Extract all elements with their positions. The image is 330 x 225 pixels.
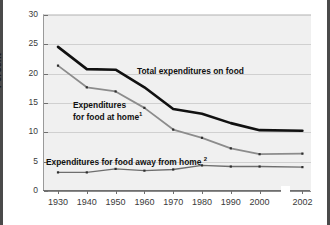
- y-tick-label: 15: [10, 98, 38, 107]
- x-tick-mark: [202, 190, 203, 194]
- series-marker: [259, 165, 261, 167]
- x-tick-mark: [173, 190, 174, 194]
- x-tick-mark: [302, 190, 303, 194]
- x-tick-mark: [144, 190, 145, 194]
- annotation-away-home-text: Expenditures for food away from home: [46, 157, 201, 167]
- annotation-at-home-line1: Expenditures: [73, 100, 126, 110]
- series-marker: [143, 170, 145, 172]
- x-tick-mark: [116, 190, 117, 194]
- annotation-food-at-home: Expendituresfor food at home1: [73, 100, 142, 122]
- x-tick-mark: [87, 190, 88, 194]
- y-tick-label: 10: [10, 127, 38, 136]
- series-marker: [301, 166, 303, 168]
- series-marker: [230, 147, 232, 149]
- series-marker: [115, 168, 117, 170]
- annotation-away-home-footnote: 2: [204, 156, 207, 162]
- annotation-at-home-footnote: 1: [139, 111, 142, 117]
- y-tick-label: 20: [10, 69, 38, 78]
- y-tick-label: 25: [10, 39, 38, 48]
- series-layer: [0, 0, 330, 225]
- y-tick-label: 5: [10, 157, 38, 166]
- x-tick-mark: [231, 190, 232, 194]
- series-marker: [230, 165, 232, 167]
- y-tick-label: 0: [10, 186, 38, 195]
- x-tick-mark: [58, 190, 59, 194]
- chart-figure: Percent Total expenditures on food Expen…: [0, 0, 330, 225]
- series-marker: [57, 171, 59, 173]
- series-marker: [259, 153, 261, 155]
- annotation-food-away-from-home: Expenditures for food away from home 2: [46, 156, 207, 167]
- series-marker: [57, 65, 59, 67]
- series-marker: [143, 107, 145, 109]
- y-tick-label: 30: [10, 10, 38, 19]
- series-marker: [172, 128, 174, 130]
- series-marker: [86, 171, 88, 173]
- x-tick-label: 2002: [282, 198, 322, 207]
- x-tick-mark: [260, 190, 261, 194]
- series-marker: [172, 168, 174, 170]
- annotation-total-text: Total expenditures on food: [137, 66, 244, 76]
- series-marker: [115, 90, 117, 92]
- annotation-total-expenditures: Total expenditures on food: [137, 66, 244, 77]
- annotation-at-home-line2: for food at home: [73, 111, 139, 121]
- x-tick-label: 2000: [240, 198, 280, 207]
- series-marker: [301, 153, 303, 155]
- series-marker: [86, 86, 88, 88]
- series-marker: [201, 137, 203, 139]
